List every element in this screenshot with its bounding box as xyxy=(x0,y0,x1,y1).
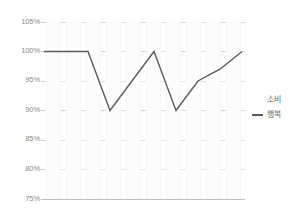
y-tick-label-105: 105% xyxy=(6,18,40,26)
y-tick-label-95: 95% xyxy=(6,76,40,84)
line-path xyxy=(44,52,242,111)
legend-item-happiness[interactable]: 행복 xyxy=(252,107,300,122)
line-series-happiness xyxy=(44,22,245,199)
y-tick-label-90: 90% xyxy=(6,106,40,114)
chart-container: 105% 100% 95% 90% 85% 80% 75% xyxy=(0,0,302,216)
legend-label-consumption: 소비 xyxy=(267,95,281,105)
y-axis: 105% 100% 95% 90% 85% 80% 75% xyxy=(0,0,40,216)
legend-swatch-icon xyxy=(252,99,263,101)
legend-line-icon xyxy=(252,114,263,116)
plot-area xyxy=(44,22,245,199)
x-axis-line xyxy=(44,199,245,200)
y-tick-label-100: 100% xyxy=(6,47,40,55)
y-tick-label-75: 75% xyxy=(6,195,40,203)
legend-item-consumption[interactable]: 소비 xyxy=(252,92,300,107)
y-tick-label-85: 85% xyxy=(6,135,40,143)
legend: 소비 행복 xyxy=(252,92,300,122)
legend-label-happiness: 행복 xyxy=(267,110,281,120)
y-tick-label-80: 80% xyxy=(6,165,40,173)
